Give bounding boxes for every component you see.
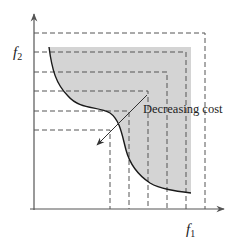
dominated-region (49, 47, 191, 193)
decreasing-cost-label: Decreasing cost (143, 102, 223, 116)
pareto-diagram: f2 f1 Decreasing cost (0, 0, 235, 242)
x-axis-label: f1 (186, 221, 195, 239)
y-axis-label: f2 (13, 44, 22, 62)
